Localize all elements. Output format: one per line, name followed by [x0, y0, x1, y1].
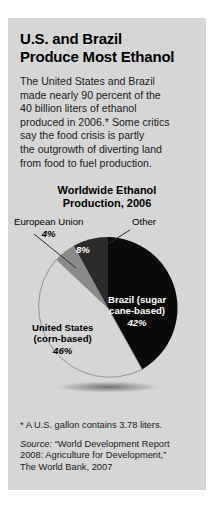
headline-line-2: Produce Most Ethanol: [20, 48, 194, 66]
slice-value-other: 8%: [76, 244, 90, 255]
lede-line-6: the outgrowth of diverting land: [20, 143, 194, 157]
lede-line-1: The United States and Brazil: [20, 75, 194, 89]
callout-european-union-label: European Union: [14, 216, 83, 227]
source-line-2: 2008: Agriculture for Development,”: [20, 450, 194, 462]
source-citation: Source: “World Development Report 2008: …: [20, 439, 194, 474]
pie-chart-graphic: [20, 216, 194, 412]
slice-value-united-states: 46%: [32, 345, 93, 356]
slice-label-brazil-line-1: Brazil (sugar: [108, 294, 166, 305]
footnote: * A U.S. gallon contains 3.78 liters.: [20, 420, 194, 432]
pie-chart: European Union 4% Other 8% Brazil (sugar…: [20, 216, 194, 412]
headline-line-1: U.S. and Brazil: [20, 30, 194, 48]
source-label: Source:: [20, 439, 52, 449]
slice-label-united-states-line-1: United States: [32, 322, 93, 333]
callout-european-union: European Union 4%: [14, 216, 83, 239]
chart-title-line-1: Worldwide Ethanol: [20, 184, 194, 197]
headline: U.S. and Brazil Produce Most Ethanol: [20, 30, 194, 65]
source-line-3: The World Bank, 2007: [20, 462, 194, 474]
lede-line-7: from food to fuel production.: [20, 157, 194, 171]
lede-line-3: 40 billion liters of ethanol: [20, 102, 194, 116]
slice-label-brazil-line-2: cane-based): [108, 305, 166, 316]
chart-title: Worldwide Ethanol Production, 2006: [20, 184, 194, 210]
lede-paragraph: The United States and Brazil made nearly…: [20, 75, 194, 170]
lede-line-5: say the food crisis is partly: [20, 129, 194, 143]
source-line-1: Source: “World Development Report: [20, 439, 194, 451]
callout-other: Other: [132, 216, 156, 227]
lede-line-4: produced in 2006.* Some critics: [20, 116, 194, 130]
slice-label-united-states-line-2: (corn-based): [32, 333, 93, 344]
slice-label-united-states: United States (corn-based) 46%: [32, 322, 93, 356]
infographic-panel: U.S. and Brazil Produce Most Ethanol The…: [8, 18, 206, 490]
callout-other-label: Other: [132, 216, 156, 227]
slice-label-brazil: Brazil (sugar cane-based) 42%: [108, 294, 166, 328]
slice-value-brazil: 42%: [108, 317, 166, 328]
callout-european-union-value: 4%: [14, 228, 83, 239]
source-line-1-rest: “World Development Report: [52, 439, 170, 449]
lede-line-2: made nearly 90 percent of the: [20, 89, 194, 103]
chart-title-line-2: Production, 2006: [20, 197, 194, 210]
pie-drop-shadow: [48, 381, 168, 394]
